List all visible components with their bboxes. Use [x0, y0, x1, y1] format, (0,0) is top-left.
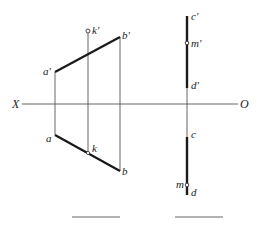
- label-k: k: [92, 142, 98, 154]
- label-c: c: [191, 128, 196, 140]
- point-k: [86, 151, 89, 154]
- label-c-prime: c': [191, 10, 199, 22]
- label-b-prime: b': [122, 29, 131, 41]
- segment-a-prime-b-prime: [55, 37, 120, 72]
- label-a-prime: a': [43, 65, 52, 77]
- point-k-prime: [86, 29, 90, 33]
- projection-diagram: X O a' b' k' a b k c' m' d' c m d: [0, 0, 262, 230]
- label-m-prime: m': [191, 37, 202, 49]
- point-m-prime: [185, 41, 189, 45]
- point-m: [185, 183, 189, 187]
- label-a: a: [46, 132, 52, 144]
- label-m: m: [176, 178, 184, 190]
- label-b: b: [122, 165, 128, 177]
- label-d-prime: d': [191, 79, 200, 91]
- label-k-prime: k': [92, 24, 100, 36]
- axis-label-o: O: [240, 97, 249, 111]
- label-d: d: [191, 186, 197, 198]
- axis-label-x: X: [11, 97, 20, 111]
